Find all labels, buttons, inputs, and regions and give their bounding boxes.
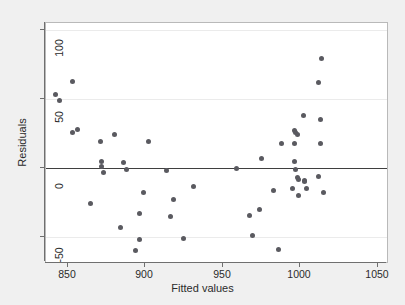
data-point [295, 132, 300, 137]
data-point [292, 159, 297, 164]
data-point [164, 168, 169, 173]
data-point [146, 139, 151, 144]
data-point [133, 248, 138, 253]
data-point [319, 56, 324, 61]
data-point [296, 193, 301, 198]
data-point [290, 186, 295, 191]
data-point [99, 159, 104, 164]
zero-reference-line [46, 168, 387, 169]
data-point [316, 80, 321, 85]
data-point [301, 113, 306, 118]
x-tick-1050 [377, 263, 378, 267]
y-tick-50 [40, 98, 44, 99]
gridline-y-50 [46, 99, 387, 100]
data-point [318, 117, 323, 122]
y-tick-label: 50 [53, 97, 65, 137]
data-point [271, 188, 276, 193]
x-tick-label: 900 [121, 268, 167, 280]
y-tick-0 [40, 167, 44, 168]
plot-area [45, 22, 388, 263]
data-point [318, 141, 323, 146]
data-point [101, 170, 106, 175]
data-point [279, 141, 284, 146]
data-point [98, 139, 103, 144]
x-tick-label: 1000 [276, 268, 322, 280]
data-point [247, 213, 252, 218]
x-tick-1000 [299, 263, 300, 267]
data-point [118, 225, 123, 230]
data-point [259, 156, 264, 161]
data-point [234, 166, 239, 171]
data-point [88, 201, 93, 206]
gridline-y-100 [46, 30, 387, 31]
x-tick-label: 850 [44, 268, 90, 280]
y-tick-100 [40, 29, 44, 30]
data-point [168, 214, 173, 219]
data-point [171, 197, 176, 202]
gridline-y--50 [46, 237, 387, 238]
x-tick-label: 950 [199, 268, 245, 280]
data-point [191, 184, 196, 189]
y-tick-label: -50 [53, 235, 65, 275]
x-tick-850 [67, 263, 68, 267]
data-point [293, 167, 298, 172]
x-tick-950 [222, 263, 223, 267]
data-point [70, 130, 75, 135]
x-tick-900 [144, 263, 145, 267]
x-axis-line [45, 262, 386, 263]
residuals-vs-fitted-scatter-chart: 85090095010001050 -50050100 Fitted value… [0, 0, 405, 305]
data-point [321, 190, 326, 195]
data-point [302, 179, 307, 184]
x-axis-label: Fitted values [0, 282, 405, 294]
y-axis-line [44, 22, 45, 261]
data-point [137, 211, 142, 216]
x-tick-label: 1050 [354, 268, 400, 280]
data-point [292, 141, 297, 146]
y-axis-label: Residuals [16, 22, 28, 263]
data-point [141, 190, 146, 195]
data-point [137, 237, 142, 242]
data-point [121, 160, 126, 165]
data-point [75, 127, 80, 132]
data-point [70, 79, 75, 84]
data-point [304, 186, 309, 191]
data-point [257, 207, 262, 212]
data-point [112, 132, 117, 137]
data-point [124, 167, 129, 172]
y-tick-label: 0 [53, 166, 65, 206]
y-tick-label: 100 [53, 28, 65, 68]
data-point [250, 233, 255, 238]
data-point [181, 236, 186, 241]
data-point [296, 177, 301, 182]
data-point [276, 247, 281, 252]
data-point [316, 174, 321, 179]
y-tick--50 [40, 236, 44, 237]
